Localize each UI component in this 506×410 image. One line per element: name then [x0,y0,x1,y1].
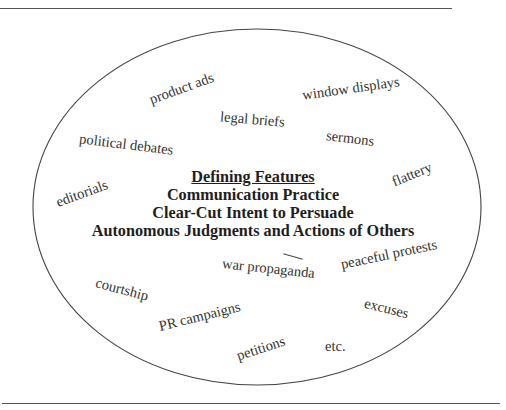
example-etc: etc. [325,338,346,355]
feature-autonomous-judgments: Autonomous Judgments and Actions of Othe… [0,222,506,241]
bottom-rule [2,403,500,404]
feature-communication-practice: Communication Practice [0,186,506,205]
defining-features-block: Defining Features Communication Practice… [0,168,506,258]
feature-intent-to-persuade: Clear-Cut Intent to Persuade [0,204,506,223]
defining-features-title: Defining Features [0,168,506,187]
